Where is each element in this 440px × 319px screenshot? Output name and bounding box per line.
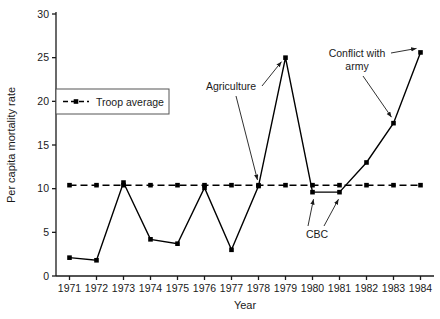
mortality-rate-point — [391, 121, 396, 126]
y-tick-label: 0 — [43, 270, 49, 282]
x-tick-label: 1982 — [355, 282, 379, 294]
troop-average-point — [337, 183, 342, 188]
mortality-rate-point — [283, 55, 288, 60]
annotation-agriculture-arrow-peak — [262, 62, 282, 86]
x-tick-label: 1981 — [328, 282, 352, 294]
x-tick-label: 1979 — [274, 282, 298, 294]
troop-average-point — [121, 183, 126, 188]
mortality-rate-point — [148, 237, 153, 242]
y-tick-label: 10 — [37, 182, 49, 194]
x-tick-label: 1977 — [220, 282, 244, 294]
y-tick-label: 25 — [37, 51, 49, 63]
annotation-conflict-label-line2: army — [345, 60, 369, 72]
annotation-cbc-label: CBC — [306, 228, 329, 240]
annotation-conflict-arrow-1983 — [363, 76, 392, 117]
y-tick-label: 20 — [37, 95, 49, 107]
troop-average-point — [283, 183, 288, 188]
annotation-agriculture-arrow-1978 — [236, 96, 258, 180]
y-tick-label: 30 — [37, 8, 49, 20]
mortality-rate-point — [364, 160, 369, 165]
y-tick-label: 5 — [43, 226, 49, 238]
legend-label-troop-average: Troop average — [96, 96, 164, 108]
x-tick-label: 1971 — [58, 282, 82, 294]
chart-container: 0510152025301971197219731974197519761977… — [0, 0, 440, 319]
annotation-conflict-arrow-1984 — [391, 48, 417, 53]
troop-average-point — [256, 183, 261, 188]
x-tick-label: 1973 — [112, 282, 136, 294]
troop-average-point — [418, 183, 423, 188]
troop-average-point — [229, 183, 234, 188]
x-tick-label: 1978 — [247, 282, 271, 294]
x-tick-label: 1972 — [85, 282, 109, 294]
mortality-rate-point — [229, 248, 234, 253]
mortality-rate-point — [337, 190, 342, 195]
x-tick-label: 1984 — [409, 282, 433, 294]
annotation-agriculture-label: Agriculture — [206, 80, 256, 92]
annotation-cbc-arrow-1981 — [324, 199, 339, 226]
mortality-rate-line-chart: 0510152025301971197219731974197519761977… — [0, 0, 440, 319]
x-tick-label: 1975 — [166, 282, 190, 294]
x-tick-label: 1974 — [139, 282, 163, 294]
troop-average-point — [202, 183, 207, 188]
troop-average-point — [148, 183, 153, 188]
mortality-rate-point — [175, 241, 180, 246]
x-tick-label: 1976 — [193, 282, 217, 294]
troop-average-point — [310, 183, 315, 188]
annotation-cbc-arrow-1980 — [308, 199, 314, 226]
troop-average-point — [364, 183, 369, 188]
x-tick-label: 1980 — [301, 282, 325, 294]
troop-average-point — [67, 183, 72, 188]
mortality-rate-point — [94, 258, 99, 263]
annotation-conflict-label-line1: Conflict with — [329, 47, 386, 59]
legend-marker-sample — [74, 99, 79, 104]
mortality-rate-point — [310, 190, 315, 195]
troop-average-point — [175, 183, 180, 188]
mortality-rate-point — [418, 50, 423, 55]
troop-average-point — [391, 183, 396, 188]
y-tick-label: 15 — [37, 139, 49, 151]
x-axis-title: Year — [234, 299, 257, 311]
mortality-rate-point — [67, 255, 72, 260]
x-tick-label: 1983 — [382, 282, 406, 294]
y-axis-title: Per capita mortality rate — [5, 87, 17, 203]
troop-average-point — [94, 183, 99, 188]
